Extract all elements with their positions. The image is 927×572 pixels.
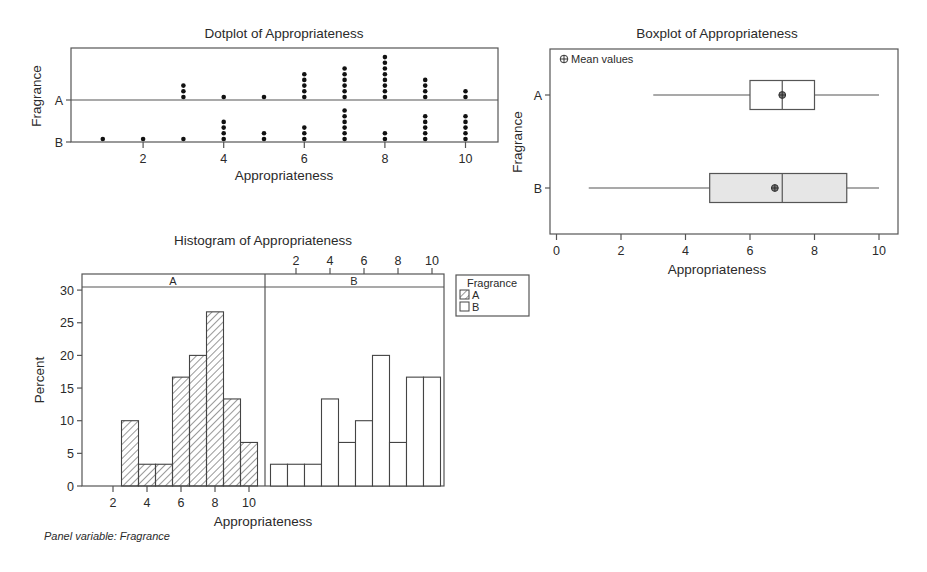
panel-caption: Panel variable: Fragrance [44,530,170,542]
dot [383,83,388,88]
dot [302,78,307,83]
histogram-bar [271,464,288,486]
histogram-y-axis: 051015202530 [60,284,82,494]
dot [463,137,468,142]
dot [423,95,428,100]
dot [342,66,347,71]
dot [302,89,307,94]
legend-swatch-b-icon [460,302,469,311]
histogram-x-tick-bottom: 4 [144,496,151,510]
dot [342,83,347,88]
boxplot-y-tick-B: B [534,182,542,196]
legend-entry-b: B [472,301,479,313]
histogram-bar [407,377,424,486]
dot [342,108,347,113]
boxplot-y-axis: AB [534,89,550,196]
dot [463,120,468,125]
histogram-y-tick: 0 [67,480,74,494]
boxplot-title: Boxplot of Appropriateness [636,26,798,41]
dot [423,83,428,88]
dot [262,95,267,100]
histogram-x-tick-top: 4 [327,254,334,268]
dot [141,137,146,142]
dotplot-frame [71,48,498,142]
dot [181,83,186,88]
dot [101,137,106,142]
boxplot-x-axis: 0246810 [553,234,886,258]
dot [342,125,347,130]
dotplot-points [101,55,468,142]
histogram-bar [288,464,305,486]
dot [383,78,388,83]
dot [383,72,388,77]
dot [423,137,428,142]
dot [383,137,388,142]
histogram-legend: Fragrance A B [456,275,529,316]
dotplot-y-label: Fragrance [29,65,44,127]
dot [383,61,388,66]
histogram-x-tick-top: 8 [395,254,402,268]
histogram-x-tick-top: 10 [425,254,439,268]
histogram-bar [424,377,441,486]
dot [221,120,226,125]
histogram-y-tick: 10 [60,414,74,428]
box-A [653,81,879,110]
chart-canvas: Dotplot of Appropriateness Fragrance App… [0,0,927,572]
histogram-x-tick-bottom: 10 [242,496,256,510]
histogram-x-tick-top: 6 [361,254,368,268]
dot [302,83,307,88]
histogram-bar [339,442,356,486]
dot [423,120,428,125]
dot [342,72,347,77]
dotplot-title: Dotplot of Appropriateness [204,26,363,41]
dot [423,131,428,136]
dot [463,114,468,119]
dotplot-y-axis: AB [55,94,498,150]
dotplot-panel: Dotplot of Appropriateness Fragrance App… [29,26,498,183]
dot [423,125,428,130]
histogram-bar [173,377,190,486]
dotplot-x-label: Appropriateness [235,168,334,183]
histogram-x-tick-bottom: 6 [178,496,185,510]
legend-title: Fragrance [467,277,517,289]
dot [423,114,428,119]
boxplot-y-tick-A: A [534,89,543,103]
legend-swatch-a-icon [460,290,469,299]
histogram-x-label: Appropriateness [214,514,313,529]
mean-marker-icon [771,185,778,192]
mean-marker-icon [560,55,568,63]
dot [383,95,388,100]
histogram-bars-panel-B [271,355,441,486]
dot [342,78,347,83]
panel-strip-label-b: B [350,275,357,287]
dot [463,125,468,130]
dot [463,95,468,100]
dotplot-x-axis: 246810 [140,142,473,166]
histogram-bar [305,464,322,486]
histogram-y-tick: 15 [60,382,74,396]
dot [342,89,347,94]
dot [181,137,186,142]
dot [423,89,428,94]
boxplot-y-label: Fragrance [510,111,525,173]
dot [383,66,388,71]
dot [383,131,388,136]
dot [423,78,428,83]
histogram-y-tick: 5 [67,447,74,461]
dot [181,89,186,94]
boxplot-boxes [589,81,879,203]
histogram-bar [241,442,258,486]
histogram-bar [373,355,390,486]
dotplot-y-tick-A: A [55,94,64,108]
histogram-y-tick: 30 [60,284,74,298]
dot [302,137,307,142]
dotplot-x-tick: 4 [220,152,227,166]
histogram-title: Histogram of Appropriateness [174,233,352,248]
histogram-bar [122,421,139,486]
dot [262,137,267,142]
histogram-bar [190,355,207,486]
histogram-x-tick-bottom: 8 [212,496,219,510]
histogram-bar [390,442,407,486]
dot [302,72,307,77]
panel-strip-label-a: A [169,275,177,287]
